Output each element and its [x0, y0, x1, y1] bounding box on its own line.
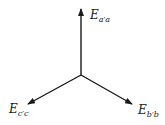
- label-e-a-prime-a: Ea′a: [90, 9, 110, 24]
- label-e-a-main: E: [90, 8, 99, 22]
- label-e-b-prime-b: Eb′b: [138, 104, 159, 119]
- label-e-b-subscript: b′b: [147, 110, 159, 119]
- phasor-b-arrow: [81, 75, 132, 104]
- label-e-c-subscript: c′c: [18, 109, 29, 118]
- label-e-c-prime-c: Ec′c: [9, 103, 29, 118]
- label-e-b-main: E: [138, 103, 147, 117]
- label-e-a-subscript: a′a: [99, 15, 110, 24]
- label-e-c-main: E: [9, 102, 18, 116]
- phasor-c-arrow: [28, 75, 81, 104]
